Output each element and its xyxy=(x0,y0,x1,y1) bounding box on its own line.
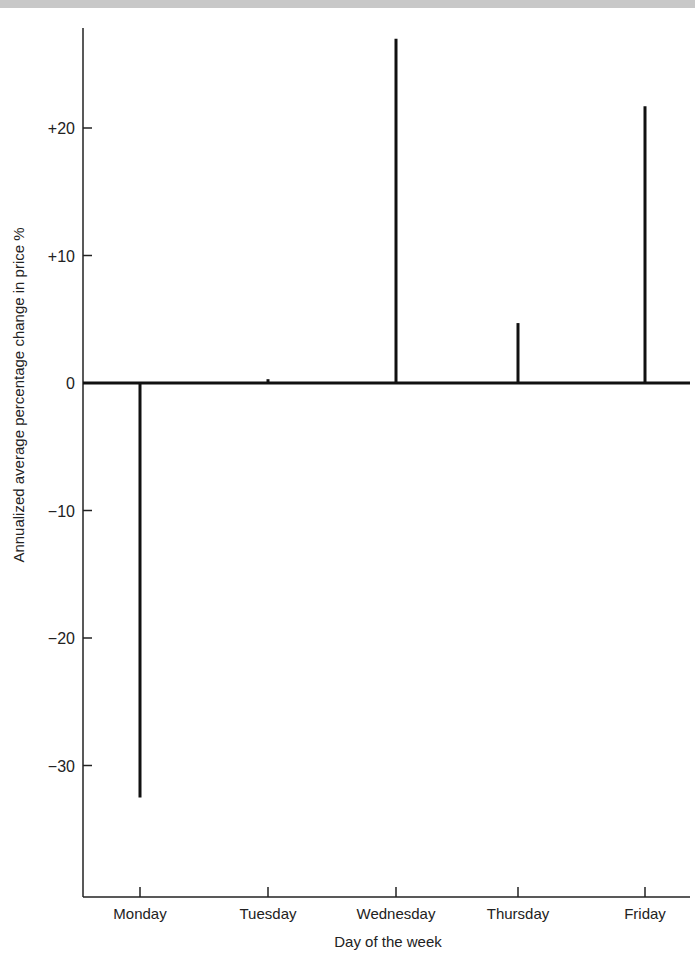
y-tick-label: 0 xyxy=(66,375,75,392)
x-tick-label-monday: Monday xyxy=(113,905,167,922)
y-tick-label: +10 xyxy=(48,248,75,265)
bar-chart: +20+100−10−20−30MondayTuesdayWednesdayTh… xyxy=(0,0,695,953)
x-tick-label-friday: Friday xyxy=(624,905,666,922)
y-tick-label: −20 xyxy=(48,630,75,647)
bars xyxy=(140,39,645,798)
y-tick-label: +20 xyxy=(48,120,75,137)
x-tick-label-wednesday: Wednesday xyxy=(357,905,436,922)
axes xyxy=(83,28,690,897)
x-tick-label-thursday: Thursday xyxy=(487,905,550,922)
y-tick-label: −30 xyxy=(48,758,75,775)
y-tick-label: −10 xyxy=(48,503,75,520)
x-axis-title: Day of the week xyxy=(334,933,442,950)
y-axis-title: Annualized average percentage change in … xyxy=(10,227,27,562)
labels: +20+100−10−20−30MondayTuesdayWednesdayTh… xyxy=(10,120,666,950)
x-tick-label-tuesday: Tuesday xyxy=(240,905,297,922)
